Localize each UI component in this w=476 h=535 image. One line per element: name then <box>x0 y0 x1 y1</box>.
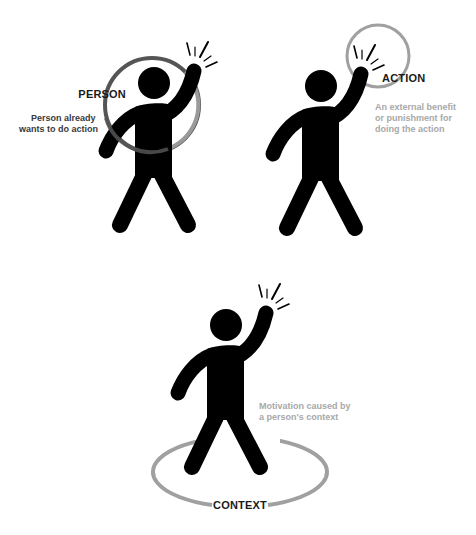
context-note: Motivation caused by a person's context <box>259 401 353 422</box>
motivation-diagram: PERSON Person already wants to do action… <box>0 0 476 535</box>
person-label: PERSON <box>78 88 126 100</box>
person-note: Person already wants to do action <box>18 113 98 134</box>
person-panel: PERSON Person already wants to do action <box>18 42 217 225</box>
action-label: ACTION <box>382 72 425 84</box>
action-figure-icon <box>273 45 384 228</box>
context-panel: CONTEXT Motivation caused by a person's … <box>153 284 353 511</box>
action-panel: ACTION An external benefit or punishment… <box>273 25 459 228</box>
context-label: CONTEXT <box>213 499 267 511</box>
action-note: An external benefit or punishment for do… <box>375 102 459 134</box>
